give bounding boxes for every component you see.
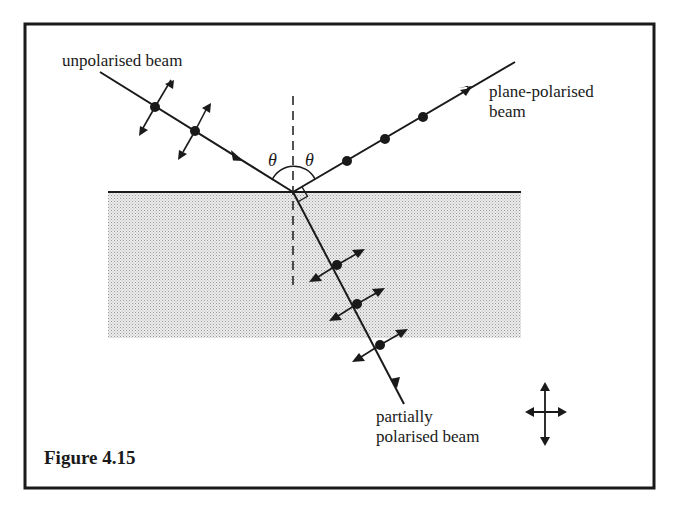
incident-beam-label: unpolarised beam: [62, 51, 182, 70]
refracted-beam-label-line2: polarised beam: [376, 427, 479, 446]
polarisation-marker-icon: [139, 80, 174, 136]
polarisation-marker-icon: [178, 103, 211, 160]
figure-caption: Figure 4.15: [44, 447, 135, 468]
refracted-beam-label-line1: partially: [376, 407, 433, 426]
theta-right-label: θ: [305, 150, 314, 170]
glass-medium: [108, 192, 521, 338]
reflected-beam: [293, 62, 515, 192]
polarisation-by-reflection-diagram: θ θ unpolarised beam plane-polarised: [0, 0, 678, 512]
reflected-beam-label-line2: beam: [489, 102, 526, 121]
theta-left-label: θ: [268, 150, 277, 170]
reflected-beam-label-line1: plane-polarised: [489, 82, 594, 101]
polarisation-key-cross-arrows-icon: [525, 382, 567, 446]
direction-arrow-icon: [231, 150, 244, 161]
incident-beam: [100, 72, 293, 192]
